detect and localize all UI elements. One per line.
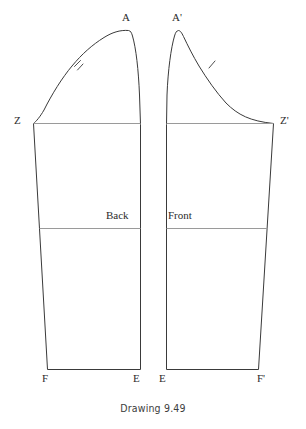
front-sleeve-outline	[167, 31, 274, 370]
vertex-label-z-prime: Z'	[280, 115, 289, 126]
front-piece-label: Front	[168, 210, 192, 221]
vertex-label-a: A	[122, 12, 130, 23]
back-sleeve-outline	[34, 30, 141, 369]
vertex-label-f: F	[42, 373, 48, 384]
figure-caption: Drawing 9.49	[21, 402, 284, 415]
pattern-svg-canvas	[0, 0, 306, 429]
vertex-label-a-prime: A'	[172, 12, 182, 23]
front-sleeve-piece	[167, 31, 274, 370]
pattern-drawing-figure: A Z F E A' Z' E F' Back Front Drawing 9.…	[0, 0, 306, 429]
vertex-label-f-prime: F'	[257, 373, 265, 384]
back-piece-label: Back	[106, 210, 129, 221]
vertex-label-e-front: E	[159, 373, 166, 384]
vertex-label-e-back: E	[133, 373, 140, 384]
back-sleeve-piece	[34, 30, 141, 369]
front-single-notch-icon	[209, 61, 215, 68]
vertex-label-z: Z	[14, 115, 21, 126]
